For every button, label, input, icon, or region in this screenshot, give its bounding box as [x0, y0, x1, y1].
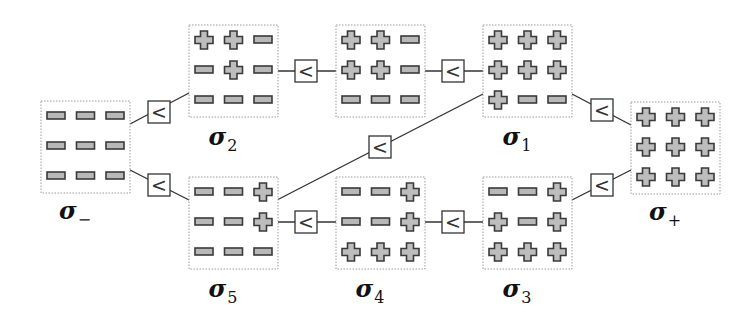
less-than-symbol: <: [151, 174, 167, 196]
minus-spin-icon: [77, 172, 95, 179]
minus-spin-icon: [47, 112, 65, 119]
less-than-symbol: <: [372, 136, 388, 158]
state-sigma-5: σ5: [189, 177, 278, 307]
state-label: σ1: [503, 122, 532, 155]
minus-spin-icon: [401, 66, 419, 73]
state-label-subscript: 5: [227, 288, 237, 307]
less-than-marker: <: [295, 60, 317, 82]
minus-spin-icon: [47, 172, 65, 179]
minus-spin-icon: [401, 36, 419, 43]
minus-spin-icon: [254, 96, 272, 103]
minus-spin-icon: [342, 218, 360, 225]
state-label-subscript: −: [78, 210, 91, 229]
minus-spin-icon: [195, 218, 213, 225]
diagram-canvas: <<<<<<<<< σ−σ2σ5σ4σ1σ3σ+: [0, 0, 753, 323]
less-than-symbol: <: [151, 101, 167, 123]
state-sigma-1: σ1: [483, 25, 572, 155]
less-than-marker: <: [295, 211, 317, 233]
minus-spin-icon: [225, 188, 243, 195]
state-label: σ4: [356, 274, 385, 307]
less-than-symbol: <: [445, 60, 461, 82]
minus-spin-icon: [225, 218, 243, 225]
state-sigma-plus: σ+: [631, 102, 720, 230]
state-label-subscript: 3: [521, 288, 531, 307]
minus-spin-icon: [77, 142, 95, 149]
state-label-subscript: +: [668, 211, 681, 230]
minus-spin-icon: [77, 112, 95, 119]
state-label: σ5: [209, 274, 238, 307]
minus-spin-icon: [401, 96, 419, 103]
minus-spin-icon: [195, 188, 213, 195]
states: σ−σ2σ5σ4σ1σ3σ+: [41, 25, 720, 307]
less-than-symbol: <: [298, 60, 314, 82]
less-than-marker: <: [442, 211, 464, 233]
minus-spin-icon: [254, 66, 272, 73]
minus-spin-icon: [106, 142, 124, 149]
less-than-symbol: <: [298, 211, 314, 233]
minus-spin-icon: [195, 248, 213, 255]
minus-spin-icon: [225, 96, 243, 103]
minus-spin-icon: [372, 218, 390, 225]
minus-spin-icon: [548, 96, 566, 103]
state-sigma-4: σ4: [336, 177, 425, 307]
minus-spin-icon: [195, 96, 213, 103]
minus-spin-icon: [519, 218, 537, 225]
minus-spin-icon: [372, 188, 390, 195]
state-label: σ3: [503, 274, 532, 307]
state-label: σ2: [209, 122, 238, 155]
state-label: σ+: [649, 197, 681, 230]
minus-spin-icon: [342, 188, 360, 195]
less-than-marker: <: [591, 174, 613, 196]
minus-spin-icon: [195, 66, 213, 73]
less-than-symbol: <: [445, 211, 461, 233]
state-label-subscript: 2: [227, 136, 237, 155]
less-than-marker: <: [148, 174, 170, 196]
state-label-subscript: 4: [374, 288, 384, 307]
minus-spin-icon: [519, 188, 537, 195]
minus-spin-icon: [342, 96, 360, 103]
minus-spin-icon: [106, 172, 124, 179]
less-than-marker: <: [442, 60, 464, 82]
minus-spin-icon: [225, 248, 243, 255]
less-than-marker: <: [591, 99, 613, 121]
state-sigma-minus: σ−: [41, 101, 130, 229]
minus-spin-icon: [254, 248, 272, 255]
less-than-symbol: <: [594, 174, 610, 196]
state-sigma-2: σ2: [189, 25, 278, 155]
less-than-symbol: <: [594, 99, 610, 121]
minus-spin-icon: [519, 96, 537, 103]
minus-spin-icon: [106, 112, 124, 119]
state-label: σ−: [59, 196, 91, 229]
minus-spin-icon: [47, 142, 65, 149]
state-sigma-top-mid: [336, 25, 425, 117]
state-sigma-3: σ3: [483, 177, 572, 307]
minus-spin-icon: [489, 188, 507, 195]
state-label-subscript: 1: [521, 136, 531, 155]
minus-spin-icon: [372, 96, 390, 103]
less-than-marker: <: [369, 136, 391, 158]
minus-spin-icon: [254, 36, 272, 43]
less-than-marker: <: [148, 101, 170, 123]
